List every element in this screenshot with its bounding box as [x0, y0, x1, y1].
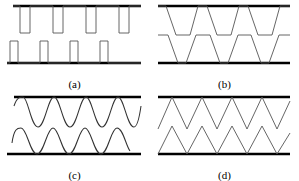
panel-a-plot — [0, 0, 149, 90]
panel-d-lower-triangle-wave — [158, 126, 290, 154]
panel-c: (c) — [0, 91, 149, 181]
panel-d: (d) — [150, 91, 299, 181]
panel-d-label: (d) — [150, 169, 299, 181]
panel-d-upper-triangle-wave — [158, 97, 290, 129]
panel-b-plot — [150, 0, 299, 90]
panel-b: (b) — [150, 0, 299, 90]
panel-b-lower-trapezoid-wave — [158, 35, 290, 63]
panel-c-upper-sine-wave — [14, 97, 141, 127]
panel-c-plot — [0, 91, 149, 181]
waveform-figure: (a) (b) (c) — [0, 0, 299, 181]
panel-b-label: (b) — [150, 78, 299, 90]
panel-b-upper-trapezoid-wave — [158, 6, 290, 35]
panel-a-upper-square-wave — [13, 6, 141, 33]
panel-a-label: (a) — [0, 78, 149, 90]
panel-a-lower-square-wave — [7, 41, 141, 63]
panel-c-label: (c) — [0, 169, 149, 181]
panel-c-lower-sine-wave — [12, 128, 130, 154]
panel-a: (a) — [0, 0, 149, 90]
panel-d-plot — [150, 91, 299, 181]
